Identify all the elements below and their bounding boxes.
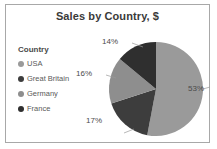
- chart-frame: Sales by Country, $ Country USA Great Br…: [5, 4, 210, 143]
- legend-item-label: USA: [27, 59, 42, 68]
- legend-swatch-icon: [18, 61, 24, 67]
- legend-item-france[interactable]: France: [18, 104, 96, 113]
- legend-item-germany[interactable]: Germany: [18, 89, 96, 98]
- legend-title: Country: [18, 45, 96, 54]
- legend-item-label: Germany: [27, 89, 58, 98]
- legend-item-label: France: [27, 104, 50, 113]
- chart-title: Sales by Country, $: [6, 10, 209, 22]
- pie-label-france: 14%: [102, 37, 118, 46]
- pie-label-great-britain: 17%: [86, 116, 102, 125]
- pie-label-usa: 53%: [188, 84, 204, 93]
- legend-item-usa[interactable]: USA: [18, 59, 96, 68]
- leader-line-usa: [203, 87, 210, 89]
- legend-swatch-icon: [18, 106, 24, 112]
- legend-swatch-icon: [18, 76, 24, 82]
- legend-item-label: Great Britain: [27, 74, 69, 83]
- pie-label-germany: 16%: [76, 69, 92, 78]
- leader-line-gb: [124, 129, 134, 133]
- chart-legend: Country USA Great Britain Germany France: [18, 45, 96, 119]
- legend-swatch-icon: [18, 91, 24, 97]
